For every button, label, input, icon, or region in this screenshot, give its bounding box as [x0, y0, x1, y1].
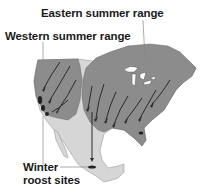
eastern-summer-range-label: Eastern summer range [41, 7, 164, 20]
winter-roost-sites-label-line2: roost sites [23, 174, 80, 187]
western-summer-range-label: Western summer range [5, 30, 131, 43]
winter-roost-sites-label-line1: Winter [23, 161, 58, 174]
